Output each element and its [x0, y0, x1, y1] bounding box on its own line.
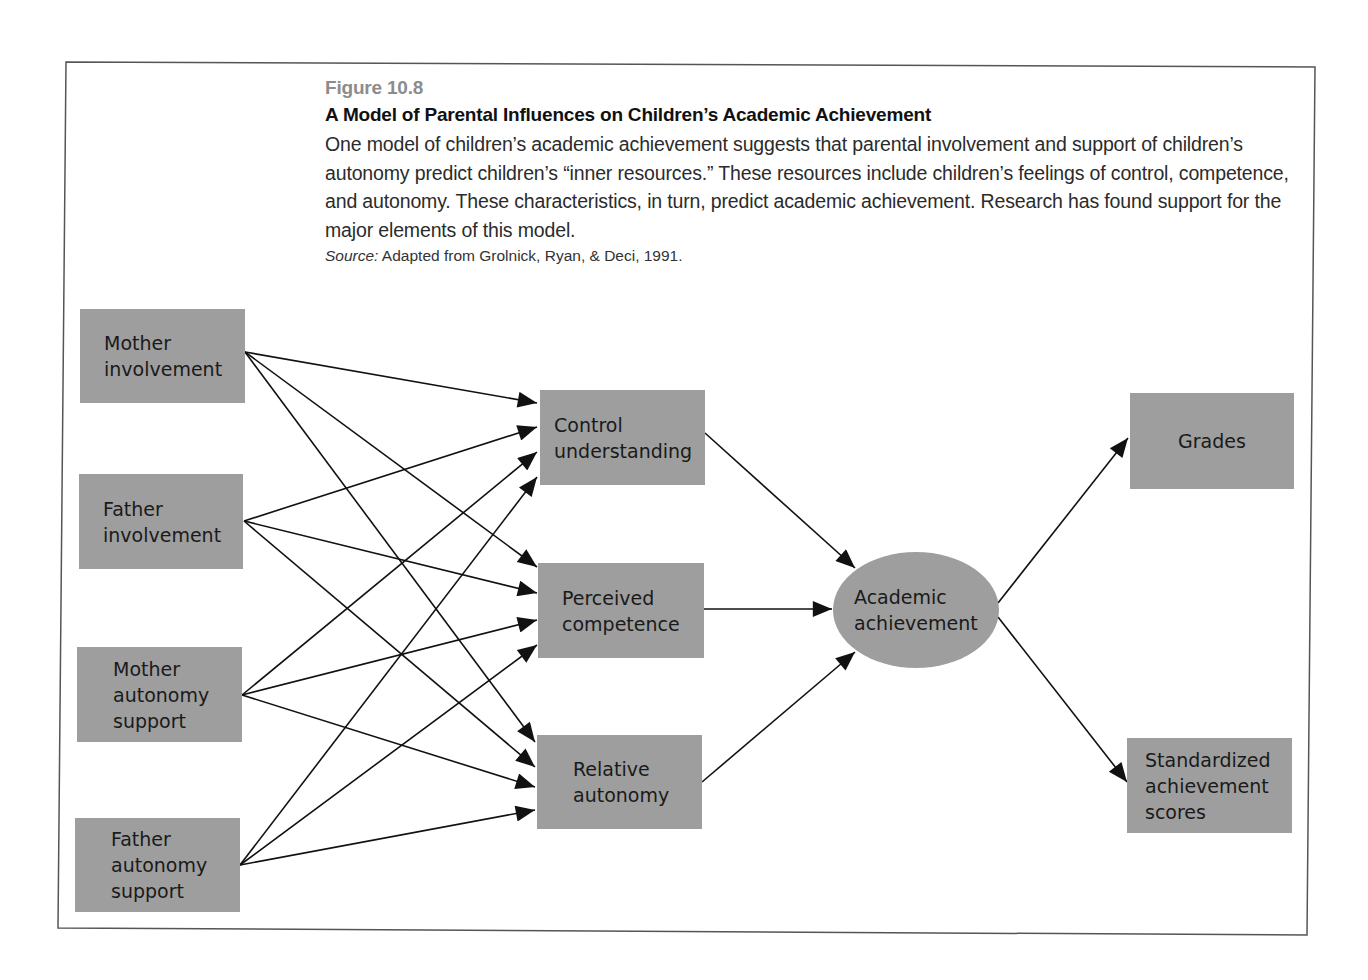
node-label-line: Grades	[1178, 430, 1246, 452]
node-label-line: autonomy	[113, 684, 209, 706]
node-standardized-achievement-scores: Standardizedachievementscores	[1127, 738, 1292, 833]
edge-control-understanding-to-academic-achievement	[705, 433, 855, 568]
node-label-line: involvement	[104, 358, 222, 380]
node-ellipse	[833, 552, 999, 668]
figure-description: One model of children’s academic achieve…	[325, 130, 1297, 244]
node-label-line: Control	[554, 414, 623, 436]
node-perceived-competence: Perceivedcompetence	[538, 563, 704, 658]
edge-father-involvement-to-relative-autonomy	[244, 521, 535, 767]
node-label-line: achievement	[1145, 775, 1269, 797]
node-box	[537, 735, 702, 829]
node-label-line: understanding	[554, 440, 692, 462]
edge-father-involvement-to-perceived-competence	[244, 521, 537, 593]
edge-academic-achievement-to-standardized-achievement-scores	[998, 617, 1127, 782]
node-label-line: support	[111, 880, 184, 902]
figure-title: A Model of Parental Influences on Childr…	[325, 100, 1305, 130]
node-label-line: achievement	[854, 612, 978, 634]
node-father-involvement: Fatherinvolvement	[79, 474, 243, 569]
node-box	[538, 563, 704, 658]
node-box	[79, 474, 243, 569]
node-label-line: Perceived	[562, 587, 654, 609]
edge-mother-autonomy-support-to-perceived-competence	[242, 620, 537, 695]
node-mother-autonomy-support: Motherautonomysupport	[77, 647, 242, 742]
node-relative-autonomy: Relativeautonomy	[537, 735, 702, 829]
node-label-line: autonomy	[111, 854, 207, 876]
node-mother-involvement: Motherinvolvement	[80, 309, 245, 403]
node-father-autonomy-support: Fatherautonomysupport	[75, 818, 240, 912]
edge-father-autonomy-support-to-perceived-competence	[240, 645, 537, 865]
figure-source: Source: Adapted from Grolnick, Ryan, & D…	[325, 244, 1305, 268]
node-label-line: competence	[562, 613, 680, 635]
node-label-line: Father	[111, 828, 171, 850]
node-label-line: Relative	[573, 758, 650, 780]
node-label-line: scores	[1145, 801, 1206, 823]
node-box	[540, 390, 705, 485]
node-label-line: autonomy	[573, 784, 669, 806]
node-label-line: Standardized	[1145, 749, 1270, 771]
edge-father-autonomy-support-to-control-understanding	[240, 477, 537, 865]
edge-mother-autonomy-support-to-relative-autonomy	[242, 695, 535, 787]
node-label-line: Mother	[104, 332, 171, 354]
nodes-layer: MotherinvolvementFatherinvolvementMother…	[75, 309, 1294, 912]
edge-father-involvement-to-control-understanding	[244, 427, 537, 521]
node-academic-achievement: Academicachievement	[833, 552, 999, 668]
edge-mother-involvement-to-control-understanding	[245, 352, 537, 403]
figure-caption: Figure 10.8 A Model of Parental Influenc…	[325, 76, 1305, 268]
node-grades: Grades	[1130, 393, 1294, 489]
node-label-line: Father	[103, 498, 163, 520]
edge-academic-achievement-to-grades	[998, 438, 1128, 603]
source-text: Adapted from Grolnick, Ryan, & Deci, 199…	[378, 247, 682, 264]
node-label-line: involvement	[103, 524, 221, 546]
node-label-line: support	[113, 710, 186, 732]
node-control-understanding: Controlunderstanding	[540, 390, 705, 485]
node-label-line: Academic	[854, 586, 947, 608]
edge-mother-autonomy-support-to-control-understanding	[242, 452, 537, 695]
edge-father-autonomy-support-to-relative-autonomy	[240, 810, 535, 865]
source-label: Source:	[325, 247, 378, 264]
edge-relative-autonomy-to-academic-achievement	[702, 652, 855, 782]
node-label-line: Mother	[113, 658, 180, 680]
node-box	[80, 309, 245, 403]
figure-number: Figure 10.8	[325, 76, 1305, 100]
